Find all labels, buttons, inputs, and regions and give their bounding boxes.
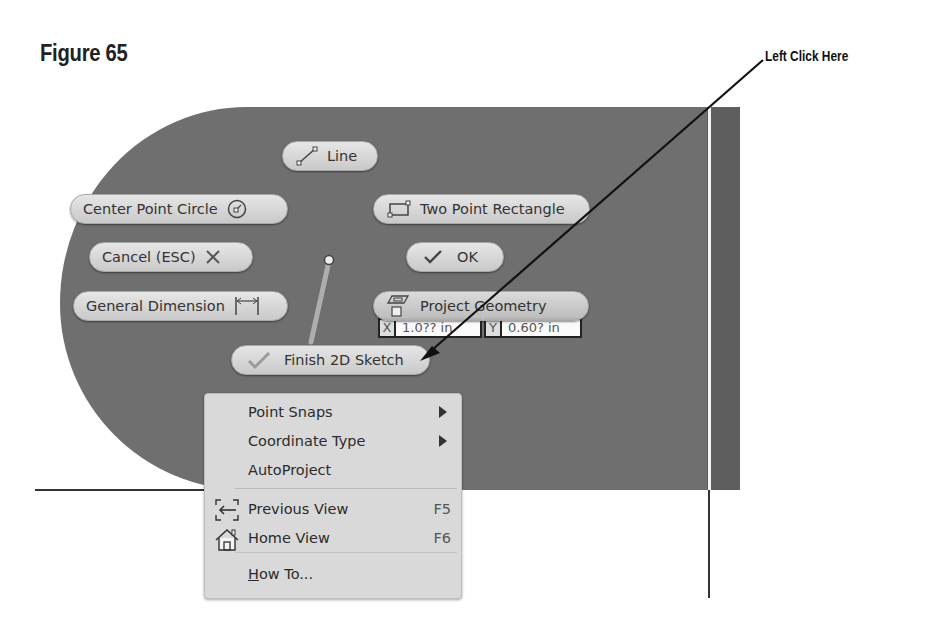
checkmark-icon [246,350,272,370]
menu-item-label-rest: ow To... [259,566,313,582]
line-icon [295,145,319,167]
submenu-arrow-icon [439,406,447,418]
menu-item-home-view[interactable]: Home View F6 [205,524,461,552]
finish-2d-sketch-label: Finish 2D Sketch [284,352,404,368]
menu-item-label: Previous View [248,501,348,517]
line-button[interactable]: Line [282,141,378,171]
menu-item-autoproject[interactable]: AutoProject [205,456,461,484]
figure-title: Figure 65 [40,40,128,67]
menu-shortcut: F5 [433,501,451,517]
menu-item-point-snaps[interactable]: Point Snaps [205,398,461,426]
callout-label: Left Click Here [765,48,848,64]
submenu-arrow-icon [439,435,447,447]
general-dimension-label: General Dimension [86,298,225,314]
menu-item-label: Coordinate Type [248,433,365,449]
viewport-bottom-line [35,489,205,491]
menu-item-previous-view[interactable]: Previous View F5 [205,495,461,523]
line-label: Line [327,148,357,164]
coordinate-input[interactable]: X 1.0?? in Y 0.60? in [378,318,582,338]
viewport-border-line [708,107,711,492]
cancel-button[interactable]: Cancel (ESC) [89,242,253,272]
mnemonic-letter: H [248,566,259,582]
cancel-label: Cancel (ESC) [102,249,196,265]
two-point-rectangle-label: Two Point Rectangle [420,201,565,217]
project-geometry-label: Project Geometry [420,298,547,314]
ok-button[interactable]: OK [406,242,504,272]
menu-separator [235,488,457,489]
marking-menu-center-icon [280,250,360,350]
project-geometry-button[interactable]: Project Geometry [373,291,589,321]
center-point-circle-label: Center Point Circle [83,201,218,217]
finish-2d-sketch-button[interactable]: Finish 2D Sketch [231,345,430,375]
close-icon [204,248,222,266]
center-point-circle-button[interactable]: Center Point Circle [70,194,288,224]
canvas-right-panel [707,107,740,490]
project-geometry-icon [386,293,412,319]
x-value-field[interactable]: 1.0?? in [396,318,482,338]
dimension-icon [233,295,261,317]
menu-item-how-to[interactable]: How To... [205,560,461,588]
ok-label: OK [457,249,478,265]
x-label: X [378,318,396,338]
circle-icon [226,198,248,220]
menu-item-label: Point Snaps [248,404,333,420]
menu-item-coordinate-type[interactable]: Coordinate Type [205,427,461,455]
menu-item-label: Home View [248,530,330,546]
viewport-edge-line [708,490,710,598]
checkmark-icon [423,249,443,265]
menu-item-label: How To... [248,566,313,582]
menu-separator [235,552,457,553]
y-value-field[interactable]: 0.60? in [502,318,582,338]
rectangle-icon [386,199,412,219]
context-menu: Point Snaps Coordinate Type AutoProject … [204,393,462,599]
two-point-rectangle-button[interactable]: Two Point Rectangle [373,194,590,224]
previous-view-icon [214,498,240,522]
y-label: Y [484,318,502,338]
home-view-icon [214,527,240,551]
menu-shortcut: F6 [433,530,451,546]
menu-item-label: AutoProject [248,462,331,478]
general-dimension-button[interactable]: General Dimension [73,291,288,321]
